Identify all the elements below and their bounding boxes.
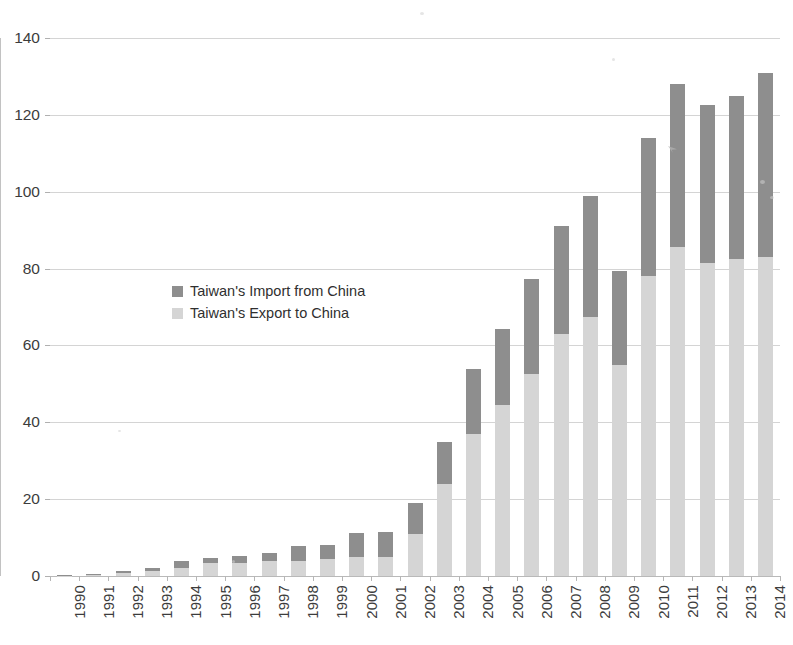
y-tick-label: 0 — [0, 567, 40, 585]
x-tick-mark — [79, 576, 80, 581]
bar-segment-import — [583, 196, 598, 317]
bar-segment-import — [349, 533, 364, 557]
x-tick-mark — [692, 576, 693, 581]
bar-segment-export — [437, 484, 452, 576]
bar-segment-export — [262, 561, 277, 576]
bar-segment-export — [700, 263, 715, 576]
bar-1996 — [232, 556, 247, 576]
bar-segment-import — [466, 369, 481, 434]
bar-2001 — [378, 532, 393, 576]
bar-segment-export — [174, 568, 189, 576]
bar-1995 — [203, 558, 218, 576]
bar-1990 — [57, 575, 72, 576]
x-tick-mark — [342, 576, 343, 581]
x-tick-label: 2000 — [363, 585, 380, 619]
x-tick-label: 1996 — [246, 585, 263, 619]
y-tick-label: 100 — [0, 183, 40, 201]
scan-speck — [232, 560, 235, 563]
x-tick-mark — [663, 576, 664, 581]
bar-segment-import — [495, 329, 510, 405]
bar-1998 — [291, 546, 306, 576]
bar-segment-import — [174, 561, 189, 567]
bar-segment-export — [349, 557, 364, 576]
bar-1993 — [145, 568, 160, 576]
x-tick-mark — [430, 576, 431, 581]
bar-segment-export — [203, 563, 218, 576]
bar-2013 — [729, 96, 744, 576]
x-tick-mark — [459, 576, 460, 581]
x-tick-label: 2008 — [596, 585, 613, 619]
bar-segment-import — [612, 271, 627, 365]
bar-segment-import — [524, 279, 539, 374]
bar-segment-export — [612, 365, 627, 576]
x-tick-mark — [488, 576, 489, 581]
scan-speck — [118, 430, 121, 432]
bar-segment-import — [670, 84, 685, 247]
bar-segment-import — [291, 546, 306, 561]
x-tick-label: 1997 — [275, 585, 292, 619]
x-tick-mark — [780, 576, 781, 581]
x-tick-label: 1993 — [158, 585, 175, 619]
bar-segment-import — [86, 574, 101, 575]
x-tick-label: 2007 — [567, 585, 584, 619]
bar-segment-export — [378, 557, 393, 576]
y-tick-label: 80 — [0, 260, 40, 278]
x-tick-mark — [751, 576, 752, 581]
scan-speck — [612, 58, 615, 61]
bar-segment-import — [700, 105, 715, 263]
x-tick-mark — [50, 576, 51, 581]
x-tick-mark — [605, 576, 606, 581]
bar-segment-import — [758, 73, 773, 257]
bar-segment-export — [116, 573, 131, 576]
x-tick-label: 2014 — [771, 585, 788, 619]
bar-segment-import — [378, 532, 393, 557]
x-tick-label: 2002 — [421, 585, 438, 619]
gridline — [50, 38, 780, 39]
bar-segment-export — [670, 247, 685, 576]
legend-swatch-import-icon — [172, 286, 183, 297]
bar-1991 — [86, 574, 101, 576]
x-tick-mark — [634, 576, 635, 581]
x-tick-mark — [225, 576, 226, 581]
bar-segment-import — [437, 442, 452, 484]
bar-segment-export — [583, 317, 598, 576]
bar-segment-export — [554, 334, 569, 576]
y-tick-label: 40 — [0, 413, 40, 431]
x-tick-mark — [254, 576, 255, 581]
legend-label-export: Taiwan's Export to China — [190, 305, 349, 321]
bar-1999 — [320, 545, 335, 576]
x-tick-mark — [722, 576, 723, 581]
x-tick-mark — [138, 576, 139, 581]
x-tick-mark — [313, 576, 314, 581]
bar-2002 — [408, 503, 423, 576]
x-tick-label: 2013 — [742, 585, 759, 619]
bar-segment-export — [495, 405, 510, 576]
bar-2012 — [700, 105, 715, 576]
y-tick-label: 120 — [0, 106, 40, 124]
bar-segment-export — [758, 257, 773, 576]
bar-segment-export — [729, 259, 744, 576]
bar-segment-import — [320, 545, 335, 559]
bar-1992 — [116, 571, 131, 576]
bar-segment-import — [408, 503, 423, 533]
x-tick-label: 2009 — [625, 585, 642, 619]
x-tick-label: 2004 — [479, 585, 496, 619]
x-tick-label: 1999 — [333, 585, 350, 619]
bar-segment-export — [408, 534, 423, 576]
bar-1994 — [174, 561, 189, 576]
bar-2014 — [758, 73, 773, 576]
bar-2008 — [583, 196, 598, 576]
y-tick-label: 140 — [0, 29, 40, 47]
x-tick-label: 2001 — [392, 585, 409, 619]
scan-top-text-remnant — [0, 0, 793, 14]
bar-segment-export — [641, 276, 656, 576]
bar-2004 — [466, 369, 481, 576]
bar-segment-export — [145, 571, 160, 576]
x-tick-label: 2010 — [655, 585, 672, 619]
x-tick-mark — [546, 576, 547, 581]
bar-2009 — [612, 271, 627, 576]
x-tick-label: 2011 — [684, 585, 701, 618]
bar-segment-import — [116, 571, 131, 573]
bar-2006 — [524, 279, 539, 576]
bar-segment-import — [641, 138, 656, 276]
